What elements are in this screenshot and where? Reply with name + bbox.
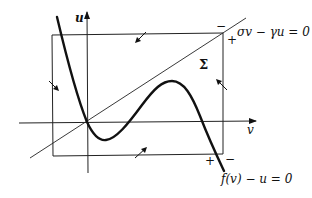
region-sigma-label: Σ — [199, 58, 208, 71]
sign-bottom-right-minus: − — [225, 153, 235, 165]
sign-bottom-right-plus: + — [205, 155, 215, 167]
sign-top-right-plus: + — [227, 34, 237, 46]
cubic-nullcline-equation: f(v) − u = 0 — [221, 173, 292, 185]
sign-top-right-minus: − — [216, 20, 226, 32]
arrow-bottom-edge — [135, 147, 147, 158]
v-axis-label: v — [247, 124, 254, 136]
v-axis — [19, 121, 256, 123]
linear-nullcline-equation: σv − γu = 0 — [237, 26, 310, 38]
arrow-left-edge — [49, 81, 59, 91]
u-axis-label: u — [75, 12, 84, 24]
cubic-nullcline — [57, 17, 224, 171]
arrow-right-edge — [216, 79, 227, 90]
u-axis — [87, 12, 88, 173]
